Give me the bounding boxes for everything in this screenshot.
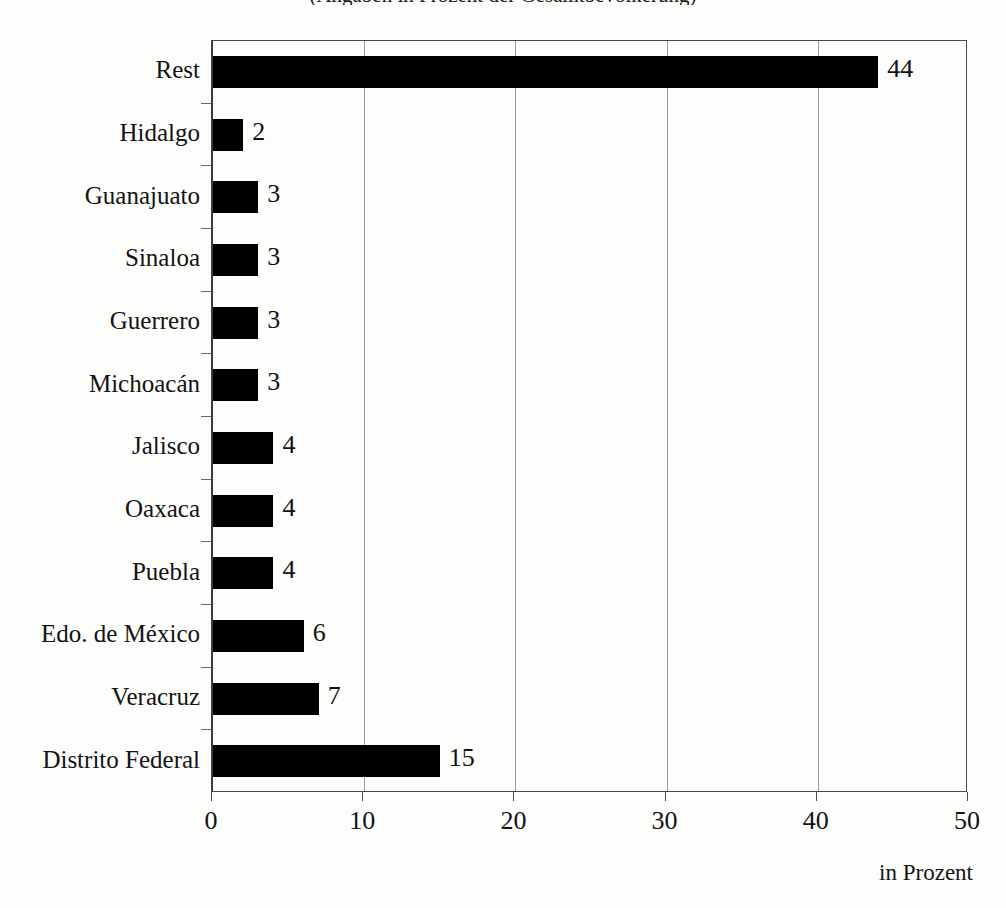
- bar-value-label: 2: [252, 116, 265, 148]
- bar-value-label: 4: [282, 554, 295, 586]
- bar-row: 15: [213, 730, 966, 793]
- bar-row: 2: [213, 104, 966, 167]
- bar-row: 3: [213, 229, 966, 292]
- bar: [213, 495, 273, 527]
- category-label: Puebla: [0, 557, 200, 587]
- bar-value-label: 7: [328, 680, 341, 712]
- x-axis-tick: [816, 792, 817, 801]
- x-axis-tick-label: 10: [327, 805, 397, 837]
- bar: [213, 683, 319, 715]
- bar-value-label: 3: [267, 366, 280, 398]
- bar-row: 3: [213, 292, 966, 355]
- chart-page: (Angaben in Prozent der Gesamtbevölkerun…: [0, 0, 1006, 908]
- bar: [213, 244, 258, 276]
- x-axis-tick: [211, 792, 212, 801]
- category-label: Sinaloa: [0, 243, 200, 273]
- x-axis-tick: [665, 792, 666, 801]
- category-axis-labels: RestHidalgoGuanajuatoSinaloaGuerreroMich…: [0, 40, 200, 792]
- category-label: Oaxaca: [0, 494, 200, 524]
- bar-value-label: 3: [267, 241, 280, 273]
- x-axis-tick: [362, 792, 363, 801]
- category-label: Edo. de México: [0, 619, 200, 649]
- bar-row: 7: [213, 668, 966, 731]
- x-axis-tick: [967, 792, 968, 801]
- bar-row: 4: [213, 417, 966, 480]
- bar: [213, 432, 273, 464]
- bar: [213, 307, 258, 339]
- bar-row: 44: [213, 41, 966, 104]
- x-axis-tick: [513, 792, 514, 801]
- category-label: Veracruz: [0, 682, 200, 712]
- x-axis-tick-label: 40: [781, 805, 851, 837]
- bar-value-label: 44: [887, 53, 913, 85]
- bar: [213, 119, 243, 151]
- category-label: Distrito Federal: [0, 745, 200, 775]
- x-axis-tick-label: 0: [176, 805, 246, 837]
- bar-row: 3: [213, 166, 966, 229]
- bar-value-label: 15: [449, 742, 475, 774]
- category-label: Jalisco: [0, 431, 200, 461]
- bar: [213, 557, 273, 589]
- category-label: Michoacán: [0, 369, 200, 399]
- bar: [213, 181, 258, 213]
- category-label: Guerrero: [0, 306, 200, 336]
- x-axis-tick-label: 20: [478, 805, 548, 837]
- bar: [213, 56, 878, 88]
- bar-value-label: 4: [282, 492, 295, 524]
- cut-off-title-remnant: (Angaben in Prozent der Gesamtbevölkerun…: [0, 0, 1006, 5]
- x-axis-tick-label: 50: [932, 805, 1002, 837]
- bar-value-label: 3: [267, 304, 280, 336]
- bar-value-label: 3: [267, 178, 280, 210]
- bar: [213, 745, 440, 777]
- bar-row: 3: [213, 354, 966, 417]
- bar: [213, 620, 304, 652]
- axis-unit-caption: in Prozent: [0, 860, 973, 886]
- category-label: Hidalgo: [0, 118, 200, 148]
- category-label: Rest: [0, 55, 200, 85]
- plot-area: 44233334446715: [211, 40, 967, 792]
- bar-value-label: 6: [313, 617, 326, 649]
- category-label: Guanajuato: [0, 181, 200, 211]
- bar-row: 4: [213, 480, 966, 543]
- bar: [213, 369, 258, 401]
- bar-row: 4: [213, 542, 966, 605]
- bar-value-label: 4: [282, 429, 295, 461]
- x-axis-tick-label: 30: [630, 805, 700, 837]
- bar-row: 6: [213, 605, 966, 668]
